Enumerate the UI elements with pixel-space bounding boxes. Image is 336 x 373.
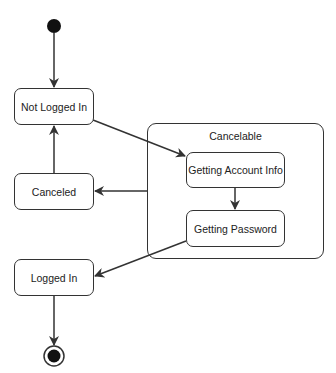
state-label: Logged In bbox=[31, 272, 78, 284]
state-label: Getting Account Info bbox=[188, 164, 283, 176]
state-logged-in[interactable]: Logged In bbox=[14, 259, 94, 296]
initial-state bbox=[47, 19, 61, 33]
state-label: Not Logged In bbox=[21, 101, 87, 113]
state-canceled[interactable]: Canceled bbox=[14, 173, 94, 210]
state-not-logged-in[interactable]: Not Logged In bbox=[14, 88, 94, 125]
state-label: Getting Password bbox=[194, 223, 277, 235]
final-state-inner bbox=[48, 350, 61, 363]
state-getting-password[interactable]: Getting Password bbox=[186, 210, 285, 247]
state-label: Canceled bbox=[32, 186, 76, 198]
state-getting-account-info[interactable]: Getting Account Info bbox=[186, 152, 285, 188]
cancelable-label: Cancelable bbox=[148, 130, 323, 142]
